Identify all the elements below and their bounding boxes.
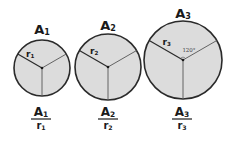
circle-group-2: r2A2A2r2 — [75, 18, 141, 131]
center-point — [107, 66, 110, 69]
fraction-numerator: A2 — [101, 105, 115, 119]
circle-group-3: r3A3120°A3r3 — [144, 6, 222, 131]
center-point — [182, 59, 185, 62]
fraction-numerator: A3 — [175, 105, 189, 119]
circle-group-1: r1A1A1r1 — [14, 22, 70, 131]
fraction-numerator: A1 — [34, 105, 48, 119]
angle-label: 120° — [182, 47, 195, 53]
area-label: A3 — [175, 6, 191, 21]
area-label: A2 — [100, 18, 116, 33]
fraction-denominator: r3 — [177, 120, 186, 131]
fraction-denominator: r2 — [103, 120, 112, 131]
area-label: A1 — [34, 22, 50, 37]
center-point — [41, 67, 44, 70]
fraction-denominator: r1 — [36, 120, 45, 131]
circles-diagram: r1A1A1r1r2A2A2r2r3A3120°A3r3 — [0, 0, 236, 142]
